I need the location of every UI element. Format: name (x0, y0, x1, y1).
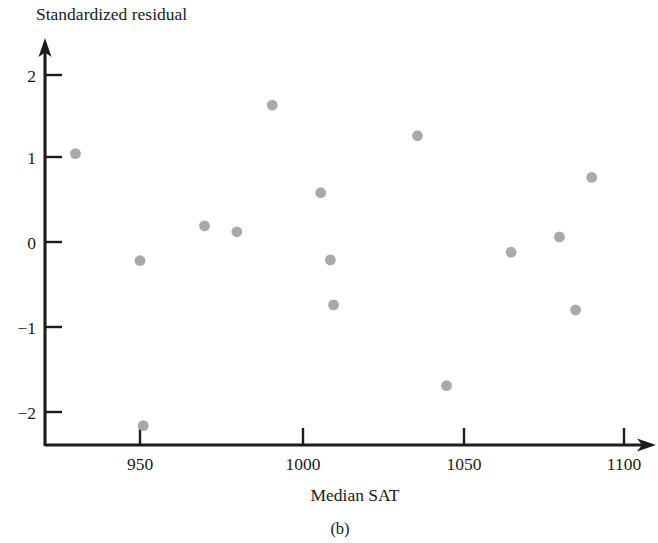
data-point (554, 232, 565, 243)
y-axis-ticks (46, 75, 62, 412)
x-tick-label-950: 950 (127, 454, 154, 474)
data-point (267, 100, 278, 111)
x-tick-labels: 950 1000 1050 1100 (127, 454, 642, 474)
x-axis (45, 439, 656, 452)
data-point (412, 130, 423, 141)
y-tick-label-neg2: −2 (17, 403, 36, 423)
scatter-plot: 2 1 0 −1 −2 950 1000 1050 1100 Standardi… (0, 0, 658, 543)
data-point (135, 255, 146, 266)
data-point (570, 305, 581, 316)
x-axis-ticks (140, 428, 624, 444)
data-point (138, 420, 149, 431)
y-tick-label-0: 0 (27, 233, 36, 253)
data-point (441, 380, 452, 391)
figure-panel: 2 1 0 −1 −2 950 1000 1050 1100 Standardi… (0, 0, 658, 543)
x-axis-title: Median SAT (311, 485, 400, 505)
data-point (315, 187, 326, 198)
y-tick-labels: 2 1 0 −1 −2 (17, 66, 36, 423)
data-points-layer (70, 100, 597, 431)
x-tick-label-1050: 1050 (447, 454, 482, 474)
x-tick-label-1000: 1000 (286, 454, 321, 474)
y-axis-title: Standardized residual (36, 4, 187, 24)
data-point (586, 172, 597, 183)
y-tick-label-1: 1 (27, 148, 36, 168)
data-point (328, 300, 339, 311)
x-tick-label-1100: 1100 (607, 454, 642, 474)
data-point (506, 247, 517, 258)
data-point (231, 226, 242, 237)
y-tick-label-neg1: −1 (17, 318, 36, 338)
figure-caption: (b) (330, 519, 349, 538)
data-point (70, 148, 81, 159)
data-point (199, 220, 210, 231)
data-point (325, 254, 336, 265)
y-tick-label-2: 2 (27, 66, 36, 86)
